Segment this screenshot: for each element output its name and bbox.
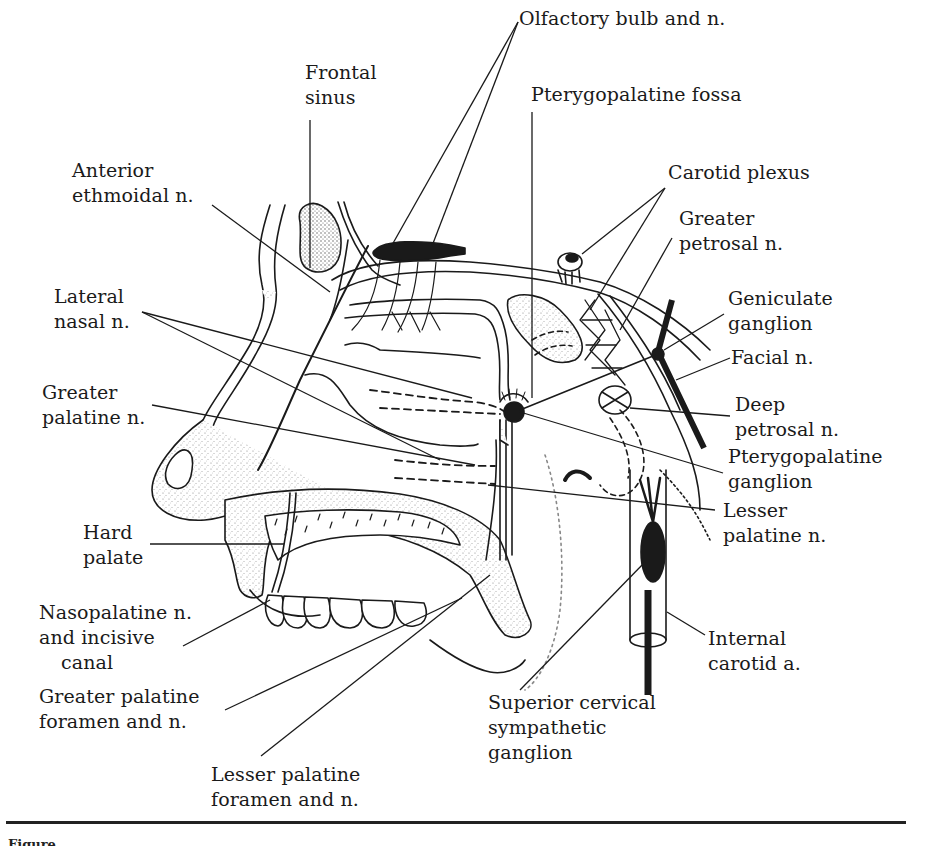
label-greater-petrosal: Greater petrosal n. bbox=[679, 206, 783, 256]
label-hard-palate: Hard palate bbox=[83, 520, 143, 570]
label-line: Olfactory bulb and n. bbox=[519, 6, 725, 31]
label-line: canal bbox=[39, 650, 192, 675]
olfactory-bulb-shape bbox=[373, 242, 465, 261]
label-line: foramen and n. bbox=[39, 709, 200, 734]
label-line: Facial n. bbox=[731, 345, 814, 370]
label-line: palatine n. bbox=[723, 523, 827, 548]
label-line: Lateral bbox=[54, 284, 130, 309]
label-line: nasal n. bbox=[54, 309, 130, 334]
label-line: Geniculate bbox=[728, 286, 833, 311]
label-line: Pterygopalatine fossa bbox=[531, 82, 742, 107]
label-line: palate bbox=[83, 545, 143, 570]
anatomy-figure: Frontal sinus Olfactory bulb and n. Pter… bbox=[0, 0, 930, 846]
label-line: Internal bbox=[708, 626, 801, 651]
label-line: Deep bbox=[735, 392, 839, 417]
label-line: petrosal n. bbox=[679, 231, 783, 256]
label-line: foramen and n. bbox=[211, 787, 360, 812]
label-line: ganglion bbox=[488, 740, 656, 765]
label-line: carotid a. bbox=[708, 651, 801, 676]
figure-caption-fragment: Figure bbox=[8, 838, 56, 846]
figure-divider-rule bbox=[6, 821, 906, 824]
label-nasopalatine: Nasopalatine n. and incisive canal bbox=[39, 600, 192, 675]
label-line: Nasopalatine n. bbox=[39, 600, 192, 625]
label-lateral-nasal: Lateral nasal n. bbox=[54, 284, 130, 334]
label-anterior-ethmoidal: Anterior ethmoidal n. bbox=[72, 158, 194, 208]
label-internal-carotid: Internal carotid a. bbox=[708, 626, 801, 676]
label-line: Anterior bbox=[72, 158, 194, 183]
teeth bbox=[266, 595, 427, 628]
label-frontal-sinus: Frontal sinus bbox=[305, 60, 377, 110]
label-greater-palatine-n: Greater palatine n. bbox=[42, 380, 146, 430]
label-pterygopalatine-fossa: Pterygopalatine fossa bbox=[531, 82, 742, 107]
label-line: Lesser palatine bbox=[211, 762, 360, 787]
label-greater-palatine-foramen: Greater palatine foramen and n. bbox=[39, 684, 200, 734]
label-line: Carotid plexus bbox=[668, 160, 810, 185]
label-line: and incisive bbox=[39, 625, 192, 650]
label-facial-nerve: Facial n. bbox=[731, 345, 814, 370]
label-deep-petrosal: Deep petrosal n. bbox=[735, 392, 839, 442]
facial-nerve-thick bbox=[658, 300, 704, 448]
label-line: sympathetic bbox=[488, 715, 656, 740]
label-pterygopalatine-ganglion: Pterygopalatine ganglion bbox=[728, 444, 883, 494]
label-line: Pterygopalatine bbox=[728, 444, 883, 469]
label-line: ganglion bbox=[728, 469, 883, 494]
label-line: Hard bbox=[83, 520, 143, 545]
label-superior-cervical-ganglion: Superior cervical sympathetic ganglion bbox=[488, 690, 656, 765]
label-line: Greater bbox=[679, 206, 783, 231]
label-line: petrosal n. bbox=[735, 417, 839, 442]
label-line: ethmoidal n. bbox=[72, 183, 194, 208]
frontal-sinus-shape bbox=[299, 204, 341, 272]
label-olfactory-bulb: Olfactory bulb and n. bbox=[519, 6, 725, 31]
superior-cervical-ganglion-shape bbox=[641, 522, 665, 582]
label-line: palatine n. bbox=[42, 405, 146, 430]
label-lesser-palatine-foramen: Lesser palatine foramen and n. bbox=[211, 762, 360, 812]
label-lesser-palatine-n: Lesser palatine n. bbox=[723, 498, 827, 548]
label-line: Greater palatine bbox=[39, 684, 200, 709]
label-line: Greater bbox=[42, 380, 146, 405]
label-line: ganglion bbox=[728, 311, 833, 336]
label-geniculate-ganglion: Geniculate ganglion bbox=[728, 286, 833, 336]
label-line: Frontal bbox=[305, 60, 377, 85]
label-line: Lesser bbox=[723, 498, 827, 523]
label-line: sinus bbox=[305, 85, 377, 110]
label-carotid-plexus: Carotid plexus bbox=[668, 160, 810, 185]
label-line: Superior cervical bbox=[488, 690, 656, 715]
